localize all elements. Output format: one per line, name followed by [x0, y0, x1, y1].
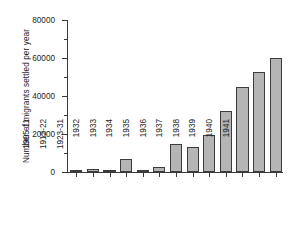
x-tick-label-1905-11: 1905-11 — [21, 119, 32, 179]
y-tick-label-60000: 60000 — [32, 54, 55, 63]
x-tick-label-1939: 1939 — [187, 119, 198, 179]
bar-chart-figure: Number of migrants settled per year 0200… — [0, 0, 292, 231]
y-tick-label-80000: 80000 — [32, 16, 55, 25]
y-minor-tick-30000 — [64, 115, 67, 116]
x-tick-label-1933: 1933 — [88, 119, 99, 179]
x-tick-label-1912-22: 1912-22 — [38, 119, 49, 179]
x-tick-label-1932: 1932 — [71, 119, 82, 179]
x-tick-1940 — [259, 173, 260, 177]
y-tick-60000: 60000 — [62, 58, 67, 59]
x-tick-label-1935: 1935 — [121, 119, 132, 179]
x-tick-label-1938: 1938 — [171, 119, 182, 179]
x-tick-label-1934: 1934 — [104, 119, 115, 179]
y-tick-80000: 80000 — [62, 20, 67, 21]
bar-1941 — [270, 58, 282, 172]
plot-area: 020000400006000080000 1905-111912-221923… — [67, 20, 283, 172]
x-tick-1941 — [276, 173, 277, 177]
y-tick-40000: 40000 — [62, 96, 67, 97]
x-tick-label-1941: 1941 — [221, 119, 232, 179]
x-tick-label-1940: 1940 — [204, 119, 215, 179]
x-tick-label-1936: 1936 — [138, 119, 149, 179]
x-tick-label-1923-31: 1923-31 — [55, 119, 66, 179]
y-minor-tick-50000 — [64, 77, 67, 78]
bar-1939 — [236, 87, 248, 173]
y-axis-line — [67, 20, 68, 172]
x-tick-1939 — [242, 173, 243, 177]
y-tick-label-40000: 40000 — [32, 92, 55, 101]
y-minor-tick-70000 — [64, 39, 67, 40]
bar-1940 — [253, 72, 265, 172]
x-tick-label-1937: 1937 — [154, 119, 165, 179]
